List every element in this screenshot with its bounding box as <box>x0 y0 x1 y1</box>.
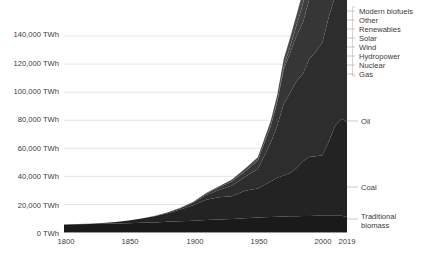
legend-item-modern-biofuels[interactable]: Modern biofuels <box>359 7 413 16</box>
y-tick-label: 40,000 TWh <box>18 172 59 181</box>
x-tick-label: 1850 <box>122 237 139 246</box>
y-tick-label: 120,000 TWh <box>14 59 59 68</box>
legend-item-hydropower[interactable]: Hydropower <box>359 52 400 61</box>
legend-item-nuclear[interactable]: Nuclear <box>359 61 386 70</box>
y-tick-label: 0 TWh <box>37 229 59 238</box>
legend-item-other[interactable]: Other <box>359 16 378 25</box>
inline-label-oil: Oil <box>361 117 371 126</box>
y-tick-label: 100,000 TWh <box>14 87 59 96</box>
legend-item-gas[interactable]: Gas <box>359 70 373 79</box>
legend-bracket <box>353 7 356 76</box>
y-tick-labels-group: 0 TWh 20,000 TWh 40,000 TWh 60,000 TWh 8… <box>14 30 59 238</box>
y-tick-label: 80,000 TWh <box>18 115 59 124</box>
inline-label-traditional-biomass-2: biomass <box>361 221 389 230</box>
y-tick-label: 60,000 TWh <box>18 144 59 153</box>
legend-item-solar[interactable]: Solar <box>359 34 377 43</box>
stacked-areas-group <box>64 0 347 233</box>
x-tick-label: 1800 <box>58 237 75 246</box>
chart-canvas: 0 TWh 20,000 TWh 40,000 TWh 60,000 TWh 8… <box>0 0 427 262</box>
inline-label-coal: Coal <box>361 183 377 192</box>
inline-annotations-group: Oil Coal Traditional biomass <box>347 117 396 230</box>
x-tick-label: 1900 <box>187 237 204 246</box>
x-tick-label: 2019 <box>339 237 356 246</box>
y-tick-label: 140,000 TWh <box>14 30 59 39</box>
x-tick-label: 1950 <box>251 237 268 246</box>
legend-item-wind[interactable]: Wind <box>359 43 376 52</box>
inline-label-traditional-biomass: Traditional <box>361 212 396 221</box>
x-tick-label: 2000 <box>315 237 332 246</box>
energy-consumption-area-chart: 0 TWh 20,000 TWh 40,000 TWh 60,000 TWh 8… <box>0 0 427 262</box>
y-tick-label: 20,000 TWh <box>18 201 59 210</box>
legend: Modern biofuels Other Renewables Solar W… <box>347 7 413 79</box>
x-tick-labels-group: 1800 1850 1900 1950 2000 2019 <box>58 237 356 246</box>
legend-item-renewables[interactable]: Renewables <box>359 25 401 34</box>
